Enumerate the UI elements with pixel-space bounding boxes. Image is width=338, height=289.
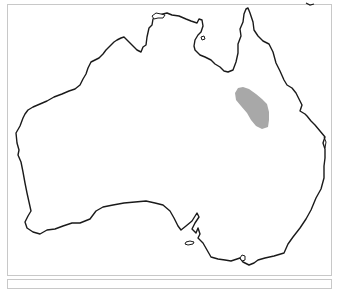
australia-coastline	[16, 8, 325, 265]
top-edge-fragment	[306, 3, 314, 5]
kangaroo-island	[185, 241, 194, 245]
groote-eylandt	[201, 36, 205, 40]
